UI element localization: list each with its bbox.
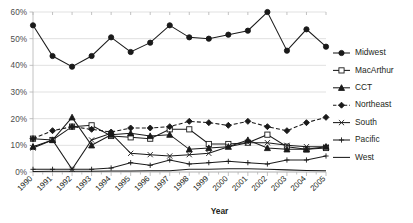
y-axis-tick-labels: 0%10%20%30%40%50%60% xyxy=(11,8,27,177)
data-point-marker xyxy=(128,160,133,165)
x-tick-label: 2005 xyxy=(308,174,327,193)
x-tick-label: 2000 xyxy=(211,174,230,193)
series-line xyxy=(33,125,326,149)
data-point-marker xyxy=(284,128,290,134)
data-point-marker xyxy=(245,160,250,165)
series-pacific xyxy=(30,153,328,172)
data-point-marker xyxy=(147,125,153,131)
data-point-marker xyxy=(245,118,251,124)
legend-label: Midwest xyxy=(355,47,386,57)
data-point-marker xyxy=(187,127,192,132)
y-tick-label: 50% xyxy=(11,35,27,44)
series-line xyxy=(33,117,326,138)
data-point-marker xyxy=(109,35,114,40)
data-point-marker xyxy=(30,23,35,28)
legend-item-macarthur[interactable]: MacArthur xyxy=(333,65,394,75)
data-point-marker xyxy=(148,40,153,45)
legend-item-west[interactable]: West xyxy=(333,152,375,162)
y-tick-label: 10% xyxy=(11,141,27,150)
data-point-marker xyxy=(304,157,309,162)
data-point-marker xyxy=(339,68,344,73)
data-point-marker xyxy=(128,125,134,131)
data-point-marker xyxy=(109,165,114,170)
data-point-marker xyxy=(225,122,231,128)
x-axis-title-text: Year xyxy=(211,206,229,216)
x-tick-label: 1998 xyxy=(172,174,191,193)
x-tick-label: 1996 xyxy=(133,174,152,193)
data-point-marker xyxy=(284,48,289,53)
x-tick-label: 2001 xyxy=(230,174,249,193)
x-tick-label: 1995 xyxy=(113,174,132,193)
gridlines xyxy=(30,12,327,176)
data-point-marker xyxy=(167,23,172,28)
x-tick-label: 1993 xyxy=(74,174,93,193)
data-point-marker xyxy=(265,9,270,14)
legend-item-south[interactable]: South xyxy=(333,117,377,127)
line-chart: 0%10%20%30%40%50%60% 1990199119921993199… xyxy=(0,0,413,223)
x-tick-label: 2003 xyxy=(269,174,288,193)
data-point-marker xyxy=(206,36,211,41)
chart-canvas: 0%10%20%30%40%50%60% 1990199119921993199… xyxy=(0,0,413,223)
y-tick-label: 60% xyxy=(11,8,27,17)
legend-label: MacArthur xyxy=(355,65,394,75)
data-point-marker xyxy=(303,120,309,126)
legend-label: Northeast xyxy=(355,99,392,109)
data-point-marker xyxy=(284,157,289,162)
data-point-marker xyxy=(323,153,328,158)
legend-item-pacific[interactable]: Pacific xyxy=(333,134,380,144)
series-line xyxy=(33,133,326,169)
data-point-marker xyxy=(187,35,192,40)
chart-legend: MidwestMacArthurCCTNortheastSouthPacific… xyxy=(333,47,394,161)
y-tick-label: 20% xyxy=(11,115,27,124)
series-midwest xyxy=(30,9,328,69)
data-point-marker xyxy=(226,32,231,37)
data-point-marker xyxy=(265,161,270,166)
x-axis-title: Year xyxy=(211,206,229,216)
data-point-marker xyxy=(226,159,231,164)
data-point-marker xyxy=(245,28,250,33)
data-point-marker xyxy=(186,118,192,124)
data-point-marker xyxy=(128,49,133,54)
data-point-marker xyxy=(187,161,192,166)
y-tick-label: 40% xyxy=(11,61,27,70)
x-tick-label: 2002 xyxy=(250,174,269,193)
data-point-marker xyxy=(265,132,270,137)
legend-item-cct[interactable]: CCT xyxy=(333,82,372,92)
legend-item-midwest[interactable]: Midwest xyxy=(333,47,386,57)
data-point-marker xyxy=(206,160,211,165)
data-point-marker xyxy=(148,163,153,168)
y-tick-label: 30% xyxy=(11,88,27,97)
legend-label: CCT xyxy=(355,82,372,92)
legend-label: South xyxy=(355,117,377,127)
x-tick-label: 1997 xyxy=(152,174,171,193)
data-point-marker xyxy=(264,124,270,130)
data-point-marker xyxy=(339,102,345,108)
data-point-marker xyxy=(339,137,344,142)
data-point-marker xyxy=(69,114,75,120)
x-tick-label: 1999 xyxy=(191,174,210,193)
x-tick-label: 1992 xyxy=(55,174,74,193)
data-point-marker xyxy=(339,50,344,55)
data-point-marker xyxy=(323,44,328,49)
data-series-group xyxy=(30,9,329,172)
data-point-marker xyxy=(89,53,94,58)
x-tick-label: 2004 xyxy=(289,174,308,193)
legend-label: West xyxy=(355,152,375,162)
x-tick-label: 1991 xyxy=(35,174,54,193)
data-point-marker xyxy=(206,120,212,126)
legend-label: Pacific xyxy=(355,134,380,144)
data-point-marker xyxy=(50,53,55,58)
x-tick-label: 1994 xyxy=(94,174,113,193)
data-point-marker xyxy=(304,27,309,32)
x-axis-tick-labels: 1990199119921993199419951996199719981999… xyxy=(15,174,327,193)
data-point-marker xyxy=(69,64,74,69)
data-point-marker xyxy=(323,114,329,120)
data-point-marker xyxy=(50,128,56,134)
series-line xyxy=(33,12,326,67)
legend-item-northeast[interactable]: Northeast xyxy=(333,99,392,109)
